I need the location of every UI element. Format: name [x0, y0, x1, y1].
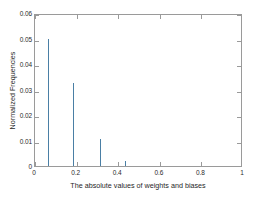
- x-axis-tick-label: 0.4: [97, 170, 137, 177]
- x-axis-tick: [118, 162, 119, 166]
- y-axis-tick: [35, 143, 39, 144]
- x-axis-tick-label: 0.6: [139, 170, 179, 177]
- x-axis-tick: [201, 15, 202, 19]
- y-axis-tick: [237, 15, 241, 16]
- plot-area: [34, 14, 242, 167]
- x-axis-tick: [118, 15, 119, 19]
- y-axis-tick: [237, 143, 241, 144]
- x-axis-tick-label: 0.8: [180, 170, 220, 177]
- x-axis-tick: [35, 162, 36, 166]
- x-axis-tick: [35, 15, 36, 19]
- y-axis-tick: [35, 117, 39, 118]
- x-axis-tick: [160, 15, 161, 19]
- y-axis-tick: [237, 117, 241, 118]
- y-axis-tick: [237, 92, 241, 93]
- x-axis-tick-label: 0.2: [56, 170, 96, 177]
- x-axis-tick: [160, 162, 161, 166]
- y-axis-tick: [237, 66, 241, 67]
- x-axis-tick: [77, 162, 78, 166]
- x-axis-tick: [77, 15, 78, 19]
- y-axis-tick: [35, 41, 39, 42]
- x-axis-title: The absolute values of weights and biase…: [34, 182, 242, 189]
- y-axis-title: Normalized Frequencies: [9, 14, 19, 167]
- y-axis-tick: [237, 41, 241, 42]
- x-axis-tick: [201, 162, 202, 166]
- x-axis-tick-label: 1: [222, 170, 253, 177]
- x-axis-tick-label: 0: [14, 170, 54, 177]
- y-axis-tick: [35, 92, 39, 93]
- histogram-bars: [35, 15, 241, 166]
- histogram-figure: 00.010.020.030.040.050.06 00.20.40.60.81…: [0, 0, 253, 198]
- y-axis-tick: [35, 66, 39, 67]
